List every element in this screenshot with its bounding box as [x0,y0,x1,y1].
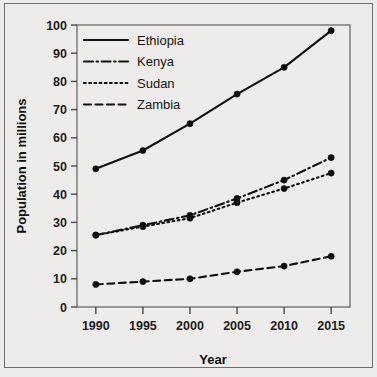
data-point-ethiopia-2010 [281,64,287,70]
data-point-zambia-2005 [234,269,240,275]
legend-label-sudan: Sudan [137,76,175,91]
data-point-kenya-2010 [281,177,287,183]
y-tick-label: 80 [53,75,67,89]
data-point-zambia-1990 [93,281,99,287]
y-tick-label: 40 [53,188,67,202]
y-tick-label: 30 [53,216,67,230]
data-point-sudan-2010 [281,185,287,191]
x-axis: 199019952000200520102015 [82,307,345,333]
data-series-layer [93,28,335,288]
x-tick-label: 2010 [270,319,298,333]
y-tick-label: 70 [53,103,67,117]
data-point-ethiopia-2005 [234,91,240,97]
x-axis-title: Year [199,352,226,367]
chart-page: 0102030405060708090100 19901995200020052… [0,0,377,377]
y-axis: 0102030405060708090100 [46,19,77,315]
x-tick-label: 2015 [317,319,345,333]
data-point-zambia-1995 [140,279,146,285]
legend-label-kenya: Kenya [137,54,175,69]
data-point-sudan-2015 [328,170,334,176]
data-point-ethiopia-1990 [93,166,99,172]
y-tick-label: 100 [46,19,67,33]
series-zambia [93,253,335,287]
legend-label-ethiopia: Ethiopia [137,33,185,48]
y-tick-label: 10 [53,272,67,286]
legend-label-zambia: Zambia [137,97,181,112]
data-point-sudan-2000 [187,215,193,221]
data-point-ethiopia-2000 [187,121,193,127]
series-line-zambia [96,256,331,284]
data-point-sudan-2005 [234,200,240,206]
data-point-zambia-2010 [281,263,287,269]
x-tick-label: 2000 [176,319,204,333]
y-tick-label: 20 [53,244,67,258]
y-tick-label: 90 [53,47,67,61]
x-tick-label: 1995 [129,319,157,333]
chart-svg: 0102030405060708090100 19901995200020052… [0,0,377,377]
series-kenya [93,154,335,238]
data-point-sudan-1995 [140,224,146,230]
plot-area-border [77,25,350,307]
series-sudan [93,170,335,238]
data-point-zambia-2015 [328,253,334,259]
data-point-zambia-2000 [187,276,193,282]
data-point-sudan-1990 [93,232,99,238]
y-tick-label: 60 [53,131,67,145]
data-point-ethiopia-1995 [140,147,146,153]
line-chart-figure: 0102030405060708090100 19901995200020052… [0,0,377,377]
y-tick-label: 50 [53,160,67,174]
series-line-ethiopia [96,31,331,169]
series-line-kenya [96,158,331,236]
data-point-kenya-2015 [328,154,334,160]
y-tick-label: 0 [60,301,67,315]
y-axis-title: Population in millions [14,98,29,233]
series-line-sudan [96,173,331,235]
plot-frame [77,25,350,307]
x-tick-label: 2005 [223,319,251,333]
x-tick-label: 1990 [82,319,110,333]
series-ethiopia [93,28,335,172]
data-point-ethiopia-2015 [328,28,334,34]
chart-legend: EthiopiaKenyaSudanZambia [84,33,185,113]
